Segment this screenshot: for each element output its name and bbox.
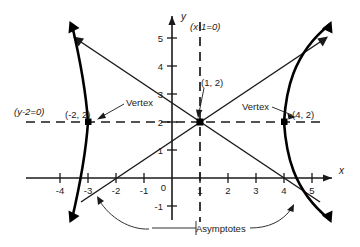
x-tick--1: -1 [140,185,148,196]
asymptotes-leader-curve-left [99,200,149,229]
x-tick--3: -3 [84,185,92,196]
right-vertex-label: Vertex [242,101,269,112]
asymptotes-leader-curve-left-arrow [97,196,104,205]
x-tick--2: -2 [112,185,120,196]
y-tick--1: -1 [155,201,163,212]
x-tick-1: 1 [197,185,202,196]
x-tick-2: 2 [225,185,230,196]
x-tick-labels: -4 -3 -2 -1 1 2 3 4 5 [56,185,315,196]
right-branch-lower-arrowhead [322,211,333,224]
y-axis-label: y [180,11,187,22]
x-tick-3: 3 [253,185,258,196]
y-tick-2: 2 [158,117,163,128]
right-vertex-marker [281,119,288,126]
y-tick-5: 5 [158,33,163,44]
left-vertex-label: Vertex [126,97,153,108]
right-vertex-point-label: (4, 2) [292,109,314,120]
vertical-asymptote-equation-label: (x-1=0) [190,21,220,32]
center-point-label: (1, 2) [201,77,223,88]
asymptote-rising-arrowhead [317,37,328,47]
x-axis-label: x [338,165,345,176]
asymptotes-label: Asymptotes [196,223,246,234]
hyperbola-plot: x y -4 -3 -2 -1 1 2 3 4 5 5 4 3 2 1 -1 0… [0,0,360,247]
left-vertex-point-label: (-2, 2) [65,109,90,120]
left-vertex-leader-arrow [97,113,106,120]
y-tick-4: 4 [158,61,163,72]
right-branch-curve [284,25,329,219]
x-tick--4: -4 [56,185,64,196]
y-tick-3: 3 [158,89,163,100]
right-vertex-leader [272,107,292,115]
y-tick-1: 1 [158,145,163,156]
asymptotes-leader-curve-right [250,208,292,228]
y-axis-arrowhead [168,16,175,25]
x-axis-arrowhead [323,174,332,181]
x-tick-5: 5 [309,185,314,196]
horizontal-asymptote-equation-label: (y-2=0) [14,106,44,117]
right-branch-upper-arrowhead [322,21,333,34]
asymptotes-leader-curve-right-arrow [287,204,294,212]
center-point-marker [197,119,204,126]
graph-figure: x y -4 -3 -2 -1 1 2 3 4 5 5 4 3 2 1 -1 0… [0,0,360,247]
origin-label: 0 [161,182,166,193]
x-tick-4: 4 [281,185,286,196]
